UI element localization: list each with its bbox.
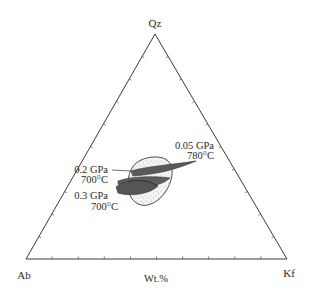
- leader-line-0.2-gpa: [112, 170, 131, 171]
- tick-mark: [103, 124, 105, 125]
- tick-mark: [232, 169, 234, 170]
- tick-mark: [179, 79, 181, 80]
- tick-mark: [245, 192, 247, 193]
- vertex-label-ab: Ab: [17, 269, 31, 281]
- ternary-plot: Qz Ab Kf Wt.% 0.05 GPa 780°C 0.2 GPa 700…: [0, 0, 311, 294]
- axis-label-wt: Wt.%: [144, 273, 168, 284]
- triangle-outline: [26, 34, 287, 259]
- vertex-label-qz: Qz: [149, 17, 162, 29]
- vertex-label-kf: Kf: [283, 267, 295, 279]
- tick-mark: [258, 214, 260, 215]
- tick-mark: [91, 147, 93, 148]
- label-0.3-gpa-temp: 700°C: [91, 201, 118, 212]
- ternary-diagram: Qz Ab Kf Wt.% 0.05 GPa 780°C 0.2 GPa 700…: [0, 0, 311, 294]
- tick-mark: [116, 102, 118, 103]
- label-0.05-gpa-temp: 780°C: [187, 150, 214, 161]
- tick-mark: [166, 57, 168, 58]
- tick-mark: [129, 79, 131, 80]
- tick-mark: [52, 214, 54, 215]
- label-0.3-gpa-pressure: 0.3 GPa: [74, 190, 108, 201]
- tick-mark: [206, 124, 208, 125]
- tick-mark: [272, 237, 274, 238]
- tick-mark: [142, 57, 144, 58]
- tick-mark: [39, 237, 41, 238]
- tick-mark: [192, 102, 194, 103]
- tick-mark: [219, 147, 221, 148]
- label-0.2-gpa-temp: 700°C: [81, 174, 108, 185]
- tick-mark: [65, 192, 67, 193]
